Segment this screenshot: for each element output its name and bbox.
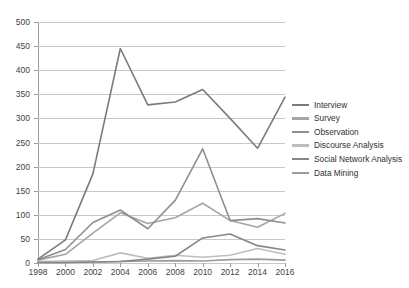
legend-item-discourse-analysis[interactable]: Discourse Analysis	[292, 139, 409, 153]
y-axis-tick-label: 500	[0, 18, 30, 27]
legend-item-observation[interactable]: Observation	[292, 125, 409, 139]
series-line-social-network-analysis	[38, 234, 285, 262]
legend-swatch-icon	[292, 131, 309, 133]
legend-label: Interview	[314, 101, 347, 109]
legend-label: Social Network Analysis	[314, 155, 402, 163]
y-axis-tick-label: 450	[0, 42, 30, 51]
legend-swatch-icon	[292, 117, 309, 119]
legend-label: Discourse Analysis	[314, 141, 384, 149]
y-axis-tick-label: 0	[0, 259, 30, 268]
y-axis-tick-label: 100	[0, 211, 30, 220]
y-axis-tick-label: 350	[0, 90, 30, 99]
chart-legend: InterviewSurveyObservationDiscourse Anal…	[292, 98, 409, 180]
legend-swatch-icon	[292, 104, 309, 106]
y-axis-tick-label: 300	[0, 114, 30, 123]
series-line-observation	[38, 149, 285, 260]
legend-label: Survey	[314, 114, 340, 122]
legend-swatch-icon	[292, 144, 309, 146]
legend-item-survey[interactable]: Survey	[292, 112, 409, 126]
legend-item-interview[interactable]: Interview	[292, 98, 409, 112]
y-axis-tick-label: 250	[0, 139, 30, 148]
series-line-interview	[38, 49, 285, 260]
legend-swatch-icon	[292, 172, 309, 174]
x-axis-tick-label: 2016	[268, 268, 302, 277]
legend-label: Observation	[314, 128, 359, 136]
legend-label: Data Mining	[314, 169, 358, 177]
legend-swatch-icon	[292, 158, 309, 160]
series-plot	[38, 22, 285, 263]
legend-item-social-network-analysis[interactable]: Social Network Analysis	[292, 152, 409, 166]
y-axis-tick-label: 50	[0, 235, 30, 244]
line-chart: 050100150200250300350400450500 199820002…	[0, 0, 409, 288]
legend-item-data-mining[interactable]: Data Mining	[292, 166, 409, 180]
y-axis-tick-label: 200	[0, 163, 30, 172]
y-axis-tick-label: 150	[0, 187, 30, 196]
y-axis-tick-label: 400	[0, 66, 30, 75]
